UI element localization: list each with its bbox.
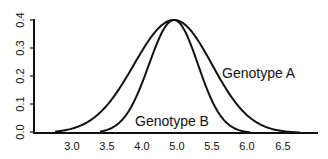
x-tick-label: 5.0 (169, 140, 184, 152)
genotype-distribution-chart: 0.00.10.20.30.4 3.03.54.05.05.56.06.5 Ge… (0, 0, 328, 159)
y-ticks: 0.00.10.20.30.4 (14, 12, 34, 139)
y-tick-label: 0.3 (14, 40, 26, 55)
y-tick-label: 0.4 (14, 12, 26, 27)
x-tick-labels: 3.03.54.05.05.56.06.5 (64, 140, 290, 152)
x-tick-label: 5.5 (204, 140, 219, 152)
x-tick-label: 6.0 (239, 140, 254, 152)
y-tick-label: 0.2 (14, 68, 26, 83)
y-tick-label: 0.0 (14, 124, 26, 139)
y-tick-label: 0.1 (14, 96, 26, 111)
x-tick-label: 6.5 (275, 140, 290, 152)
label-genotype-b: Genotype B (135, 113, 209, 129)
x-tick-label: 3.0 (64, 140, 79, 152)
x-tick-label: 3.5 (99, 140, 114, 152)
x-tick-label: 4.0 (134, 140, 149, 152)
label-genotype-a: Genotype A (222, 65, 296, 81)
chart-canvas: 0.00.10.20.30.4 3.03.54.05.05.56.06.5 Ge… (0, 0, 328, 159)
